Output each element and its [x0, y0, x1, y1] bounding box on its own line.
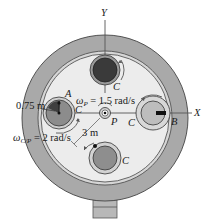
x-axis-label: X [194, 108, 200, 119]
radius-large-label: 3 m [82, 128, 98, 139]
omega-p-label: ωP = 1.5 rad/s [76, 96, 135, 108]
label-P: P [111, 117, 117, 128]
label-C-top: C [113, 82, 120, 93]
omega-cp-label: ωC/P = 2 rad/s [13, 133, 71, 145]
label-B: B [171, 117, 177, 128]
label-A: A [65, 89, 71, 100]
y-axis-label: Y [101, 8, 107, 19]
label-C-right: C [128, 118, 135, 129]
label-C-bottom: C [122, 156, 129, 167]
radius-small-label: 0.75 m [16, 101, 45, 112]
